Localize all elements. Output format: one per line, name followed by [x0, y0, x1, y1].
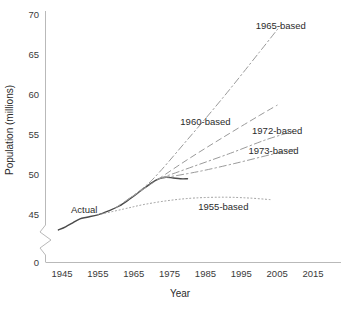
series-label-actual: Actual [71, 204, 97, 215]
series-line-1965-based [127, 25, 281, 200]
y-tick-label: 45 [28, 209, 39, 220]
y-axis-title: Population (millions) [4, 85, 15, 175]
series-label-1955-based: 1955-based [198, 201, 248, 212]
x-tick-label: 1945 [51, 268, 72, 279]
x-tick-label: 1975 [159, 268, 180, 279]
y-tick-label: 0 [34, 257, 39, 268]
x-tick-label: 2005 [267, 268, 288, 279]
series-label-1965-based: 1965-based [256, 20, 306, 31]
chart-canvas: 0455055606570 19451955196519751985199520… [0, 0, 349, 312]
series-labels: Actual1955-based1960-based1965-based1972… [71, 20, 306, 215]
population-projection-chart: 0455055606570 19451955196519751985199520… [0, 0, 349, 312]
x-tick-label: 2015 [302, 268, 323, 279]
y-tick-label: 65 [28, 49, 39, 60]
x-tick-label: 1985 [195, 268, 216, 279]
series-label-1960-based: 1960-based [180, 116, 230, 127]
x-tick-label: 1955 [87, 268, 108, 279]
y-axis-break-marker [40, 225, 51, 262]
y-tick-label: 60 [28, 89, 39, 100]
y-tick-labels: 0455055606570 [28, 9, 39, 268]
y-tick-label: 70 [28, 9, 39, 20]
series-label-1972-based: 1972-based [252, 125, 302, 136]
x-axis-title: Year [170, 288, 191, 299]
x-tick-label: 1965 [123, 268, 144, 279]
y-tick-label: 50 [28, 169, 39, 180]
y-tick-label: 55 [28, 129, 39, 140]
x-tick-labels: 19451955196519751985199520052015 [51, 268, 323, 279]
series-label-1973-based: 1973-based [248, 145, 298, 156]
x-tick-label: 1995 [231, 268, 252, 279]
